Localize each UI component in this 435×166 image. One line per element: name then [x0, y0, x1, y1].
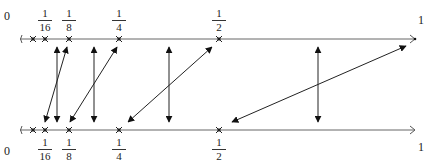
top-one-label: 1: [418, 14, 424, 26]
bottom-zero-label: 0: [4, 145, 10, 157]
diagonal-arrow-4: [232, 46, 406, 122]
bottom-tick-label-1-2: 12: [209, 137, 229, 162]
bottom-tick-label-1-16: 116: [35, 137, 55, 162]
mapping-arrows: [45, 46, 406, 122]
diagonal-arrow-3: [128, 47, 212, 122]
top-tick-label-1-4: 14: [109, 8, 129, 33]
top-tick-label-1-8: 18: [59, 8, 79, 33]
top-number-line: [20, 35, 416, 43]
top-tick-label-1-16: 116: [35, 8, 55, 33]
bottom-tick-label-1-8: 18: [59, 137, 79, 162]
top-zero-label: 0: [4, 10, 10, 22]
bottom-one-label: 1: [418, 141, 424, 153]
bottom-number-line: [20, 126, 415, 134]
bottom-tick-label-1-4: 14: [109, 137, 129, 162]
diagonal-arrow-1: [45, 47, 67, 122]
top-tick-label-1-2: 12: [209, 8, 229, 33]
